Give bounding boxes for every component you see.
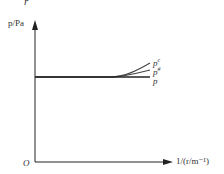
top-fragment: r	[24, 0, 28, 7]
curve-p-hash	[35, 70, 150, 77]
y-axis-arrow-icon	[32, 20, 38, 30]
curve-p-c	[35, 63, 150, 77]
x-axis-label: 1/(r/m⁻¹)	[176, 157, 209, 166]
y-axis-label: p/Pa	[8, 19, 24, 28]
label-p: p	[153, 77, 158, 86]
chart-canvas	[0, 0, 224, 174]
x-axis-arrow-icon	[163, 159, 173, 165]
origin-label: O	[23, 159, 30, 168]
